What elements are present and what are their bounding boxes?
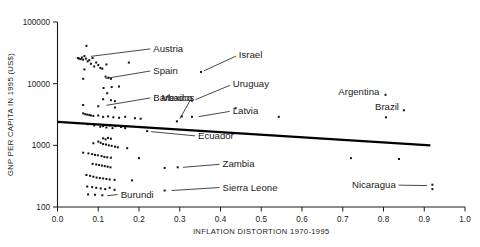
annotation-leader-line: [106, 71, 151, 78]
data-point: [109, 166, 111, 168]
data-point: [146, 130, 148, 132]
data-point: [112, 116, 114, 118]
y-tick-label: 100: [36, 203, 50, 212]
data-point: [82, 152, 84, 154]
trend-line: [58, 122, 431, 145]
data-point: [111, 145, 113, 147]
annotation-label: Zambia: [223, 158, 256, 169]
data-point: [100, 142, 102, 144]
data-point: [101, 194, 103, 196]
data-point: [107, 137, 109, 139]
data-point: [104, 188, 106, 190]
annotation-label: Burundi: [121, 189, 154, 200]
data-point: [81, 57, 83, 59]
data-point: [83, 68, 85, 70]
data-point: [124, 116, 126, 118]
data-point: [90, 114, 92, 116]
data-point: [103, 87, 105, 89]
data-point: [85, 45, 87, 47]
data-point: [85, 174, 87, 176]
y-axis-title: GNP PER CAPITA IN 1995 (US$): [6, 53, 15, 176]
data-point: [177, 166, 179, 168]
y-tick-label: 100000: [23, 18, 51, 27]
annotation-label: Mexico: [162, 92, 192, 103]
data-point: [164, 190, 166, 192]
data-point: [114, 107, 116, 109]
data-point: [101, 68, 103, 70]
data-point: [124, 127, 126, 129]
data-point: [97, 114, 99, 116]
data-point: [91, 186, 93, 188]
data-point: [106, 156, 108, 158]
data-point: [97, 141, 99, 143]
data-point: [102, 143, 104, 145]
data-point: [94, 194, 96, 196]
data-point: [94, 154, 96, 156]
data-point: [85, 58, 87, 60]
x-tick-label: 0.9: [419, 215, 431, 224]
data-point: [86, 114, 88, 116]
data-point: [96, 177, 98, 179]
data-point: [398, 158, 400, 160]
x-tick-label: 0.8: [378, 215, 390, 224]
annotation-label: Spain: [153, 65, 178, 76]
x-tick-label: 0.0: [52, 215, 64, 224]
data-point: [82, 104, 84, 106]
annotation-leader-line: [172, 188, 220, 191]
data-point: [101, 155, 103, 157]
data-point: [128, 62, 130, 64]
data-point: [92, 142, 94, 144]
data-point: [92, 176, 94, 178]
data-point: [114, 100, 116, 102]
annotation-label: Uruguay: [233, 78, 269, 89]
chart-figure: 1001000100001000000.00.10.20.30.40.50.60…: [0, 0, 480, 247]
y-tick-label: 10000: [27, 80, 50, 89]
annotation-leader-line: [199, 111, 230, 116]
data-point: [126, 147, 128, 149]
data-point: [102, 98, 104, 100]
annotation-label: Ecuador: [198, 130, 235, 141]
annotation-label: Argentina: [338, 86, 380, 97]
data-point: [431, 184, 433, 186]
data-point: [104, 165, 106, 167]
data-point: [105, 63, 107, 65]
data-point: [82, 59, 84, 61]
data-point: [92, 57, 94, 59]
data-point: [107, 166, 109, 168]
data-point: [118, 85, 120, 87]
annotation-label: Brazil: [375, 101, 399, 112]
data-point: [95, 163, 97, 165]
data-point: [107, 115, 109, 117]
annotation-leader-line: [91, 49, 150, 56]
annotation-label: Austria: [153, 43, 184, 54]
data-point: [86, 185, 88, 187]
data-point: [87, 152, 89, 154]
data-point: [105, 138, 107, 140]
data-point: [118, 117, 120, 119]
data-point: [99, 67, 101, 69]
data-point: [111, 86, 113, 88]
data-point: [92, 163, 94, 165]
data-point: [176, 120, 178, 122]
data-point: [200, 71, 202, 73]
x-tick-label: 0.7: [337, 215, 349, 224]
data-point: [105, 144, 107, 146]
data-point: [102, 177, 104, 179]
data-point: [350, 157, 352, 159]
data-point: [110, 157, 112, 159]
data-point: [117, 146, 119, 148]
x-tick-label: 0.2: [133, 215, 145, 224]
data-point: [114, 179, 116, 181]
annotation-leader-line: [151, 132, 195, 136]
data-point: [95, 187, 97, 189]
data-point: [109, 178, 111, 180]
data-point: [431, 188, 433, 190]
data-point: [98, 164, 100, 166]
scatter-plot: 1001000100001000000.00.10.20.30.40.50.60…: [0, 0, 480, 247]
data-point: [385, 94, 387, 96]
data-point: [82, 112, 84, 114]
annotation-leader-line: [183, 164, 220, 167]
annotation-label: Sierra Leone: [223, 182, 278, 193]
annotation-leader-line: [204, 56, 236, 71]
data-point: [105, 76, 107, 78]
